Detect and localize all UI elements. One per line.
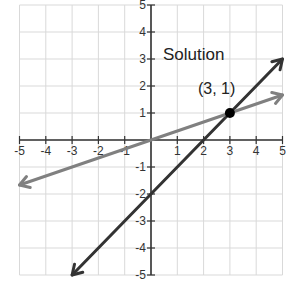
y-tick-label: -5 bbox=[135, 268, 146, 282]
solution-label: Solution bbox=[163, 45, 224, 64]
y-tick-label: -4 bbox=[135, 241, 146, 255]
x-tick-label: 3 bbox=[227, 144, 234, 158]
solution-point bbox=[225, 108, 235, 118]
x-tick-label: -4 bbox=[40, 144, 51, 158]
coordinate-plane: -5-4-3-2-112345-5-4-3-2-112345 Solution … bbox=[0, 0, 307, 293]
y-tick-label: 5 bbox=[139, 0, 146, 12]
x-tick-label: 4 bbox=[253, 144, 260, 158]
x-tick-label: 5 bbox=[279, 144, 286, 158]
y-tick-label: 4 bbox=[139, 25, 146, 39]
x-tick-label: 1 bbox=[174, 144, 181, 158]
y-tick-label: 1 bbox=[139, 106, 146, 120]
x-tick-label: 2 bbox=[200, 144, 207, 158]
annotations: Solution (3, 1) bbox=[163, 45, 235, 97]
y-tick-label: -3 bbox=[135, 214, 146, 228]
x-tick-label: -3 bbox=[67, 144, 78, 158]
x-tick-label: -5 bbox=[14, 144, 25, 158]
y-tick-label: 3 bbox=[139, 52, 146, 66]
y-tick-label: 2 bbox=[139, 79, 146, 93]
solution-point-label: (3, 1) bbox=[198, 80, 235, 97]
y-tick-label: -1 bbox=[135, 160, 146, 174]
